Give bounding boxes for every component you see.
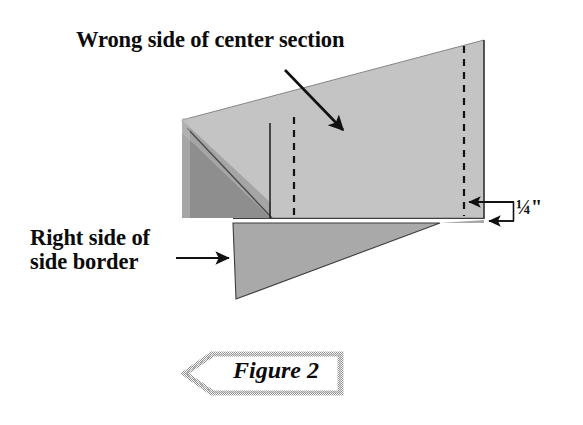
label-right-side-of-side-border: Right side ofside border (30, 226, 150, 274)
label-wrong-side-of-center-section: Wrong side of center section (76, 28, 344, 52)
label-quarter-inch-measurement: ¼" (516, 197, 542, 218)
center-panel-left-edge-shadow (182, 118, 190, 218)
label-right-side-line1: Right side of (30, 225, 150, 250)
figure-container: Wrong side of center section Right side … (0, 0, 583, 425)
figure-caption-label: Figure 2 (216, 357, 336, 384)
label-right-side-line2: side border (30, 249, 138, 274)
side-border-tip-sliver (440, 220, 484, 223)
side-border-triangle (233, 223, 440, 299)
